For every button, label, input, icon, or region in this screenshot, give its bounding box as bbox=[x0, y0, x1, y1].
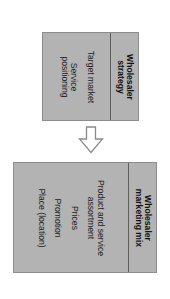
marketing-mix-items-area: Product and service assortment Prices Pr… bbox=[14, 163, 128, 272]
marketing-mix-title: Wholesaler marketing mix bbox=[134, 188, 152, 246]
strategy-items: Target market Service positioning bbox=[59, 50, 95, 103]
mix-item-promotion: Promotion bbox=[53, 180, 63, 256]
strategy-title: Wholesaler strategy bbox=[116, 54, 134, 100]
marketing-mix-items: Product and service assortment Prices Pr… bbox=[37, 180, 106, 256]
mix-item-place: Place (location) bbox=[37, 180, 47, 256]
mix-item-prices: Prices bbox=[70, 180, 80, 256]
hollow-down-arrow-icon bbox=[78, 126, 104, 154]
strategy-items-area: Target market Service positioning bbox=[43, 33, 110, 120]
strategy-header: Wholesaler strategy bbox=[110, 33, 138, 120]
marketing-mix-header: Wholesaler marketing mix bbox=[128, 163, 156, 272]
wholesaler-marketing-mix-box: Product and service assortment Prices Pr… bbox=[13, 162, 157, 273]
strategy-item-service-positioning: Service positioning bbox=[59, 50, 78, 103]
strategy-item-target-market: Target market bbox=[85, 50, 95, 103]
mix-item-product-assortment: Product and service assortment bbox=[86, 180, 105, 256]
wholesaler-strategy-box: Target market Service positioning Wholes… bbox=[42, 32, 139, 121]
